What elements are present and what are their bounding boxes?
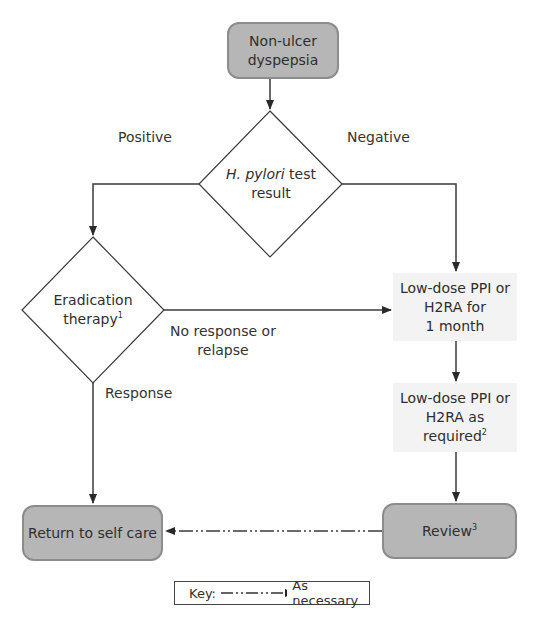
edge-label-no-response: No response or relapse bbox=[168, 322, 278, 360]
key-label: Key: bbox=[189, 586, 216, 601]
node-text: Low-dose PPI or bbox=[400, 280, 510, 296]
node-text: therapy bbox=[63, 311, 117, 327]
node-text: Low-dose PPI or bbox=[400, 390, 510, 406]
decision-eradication-therapy: Eradication therapy1 bbox=[38, 288, 148, 332]
node-review: Review3 bbox=[382, 503, 517, 559]
footnote-marker: 3 bbox=[472, 523, 477, 532]
node-text: test bbox=[285, 166, 316, 182]
node-return-to-self-care: Return to self care bbox=[22, 505, 163, 561]
edge-label-negative: Negative bbox=[347, 128, 410, 147]
node-text: Non-ulcer bbox=[249, 33, 317, 49]
legend-key: Key: As necessary bbox=[174, 581, 370, 605]
dash-dot-arrow-icon bbox=[221, 588, 287, 598]
node-text: required bbox=[423, 428, 482, 444]
node-text: H2RA for bbox=[424, 299, 486, 315]
node-ppi-one-month: Low-dose PPI or H2RA for 1 month bbox=[393, 273, 517, 341]
node-text-italic: H. pylori bbox=[226, 166, 285, 182]
node-text: Return to self care bbox=[28, 524, 157, 543]
node-text: H2RA as bbox=[426, 409, 485, 425]
edge-label-text: relapse bbox=[197, 342, 248, 358]
footnote-marker: 2 bbox=[482, 428, 487, 437]
node-text: Review bbox=[422, 523, 472, 539]
decision-h-pylori-test-result: H. pylori test result bbox=[215, 162, 327, 206]
node-text: result bbox=[251, 185, 291, 201]
node-non-ulcer-dyspepsia: Non-ulcer dyspepsia bbox=[227, 22, 339, 79]
edge-label-text: No response or bbox=[170, 323, 276, 339]
node-text: 1 month bbox=[426, 318, 485, 334]
node-text: dyspepsia bbox=[248, 52, 319, 68]
edge-label-response: Response bbox=[105, 384, 172, 403]
node-ppi-as-required: Low-dose PPI or H2RA as required2 bbox=[393, 383, 517, 452]
node-text: Eradication bbox=[53, 292, 132, 308]
edge-label-positive: Positive bbox=[118, 128, 172, 147]
footnote-marker: 1 bbox=[118, 311, 123, 320]
key-meaning: As necessary bbox=[292, 578, 369, 608]
